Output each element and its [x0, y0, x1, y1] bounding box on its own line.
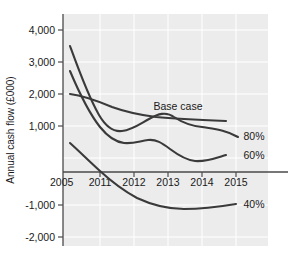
x-tick-label-2012: 2012 [122, 176, 146, 188]
series-label-40-percent: 40% [243, 198, 264, 210]
y-tick-label-3000: 3,000 [29, 56, 55, 68]
plot-panel-background [63, 14, 268, 246]
y-tick-label-neg1000: -1,000 [25, 199, 55, 211]
x-tick-label-2014: 2014 [190, 176, 214, 188]
x-tick-label-2005: 2005 [50, 176, 74, 188]
cash-flow-line-chart: 4,000 3,000 2,000 1,000 -1,000 -2,000 20… [0, 0, 288, 261]
y-tick-label-4000: 4,000 [29, 24, 55, 36]
y-tick-label-neg2000: -2,000 [25, 231, 55, 243]
y-tick-label-1000: 1,000 [29, 120, 55, 132]
y-tick-label-2000: 2,000 [29, 88, 55, 100]
y-tick-marks [58, 30, 63, 237]
chart-figure: 4,000 3,000 2,000 1,000 -1,000 -2,000 20… [0, 0, 288, 261]
y-axis-title: Annual cash flow (£000) [5, 76, 16, 183]
x-tick-label-2013: 2013 [156, 176, 180, 188]
series-label-80-percent: 80% [243, 130, 264, 142]
series-label-base-case: Base case [153, 100, 202, 112]
series-label-60-percent: 60% [243, 149, 264, 161]
x-tick-label-2015: 2015 [224, 176, 248, 188]
